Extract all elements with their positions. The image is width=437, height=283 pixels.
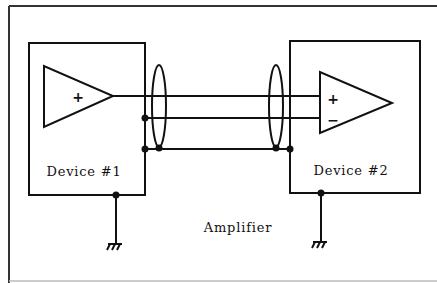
amp2-plus-sign: + — [327, 91, 339, 107]
ground-icon — [312, 193, 327, 248]
device-1-label: Device #1 — [46, 164, 121, 179]
amplifier-2-symbol: + − — [320, 72, 392, 133]
outer-frame — [9, 6, 437, 283]
amplifier-1-symbol: + — [44, 66, 113, 127]
diagram-title: Amplifier — [203, 220, 272, 235]
cable-shield-right — [269, 65, 283, 147]
cable-shield-left — [152, 65, 166, 147]
amplifier-wiring-diagram: + + − Device #1 D — [0, 0, 437, 283]
device-2-label: Device #2 — [313, 163, 388, 178]
amp1-plus-sign: + — [72, 89, 84, 105]
ground-icon — [107, 195, 122, 250]
amp2-minus-sign: − — [327, 112, 339, 128]
